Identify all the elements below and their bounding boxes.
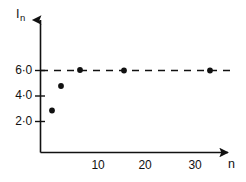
x-tick-label-30: 30	[181, 159, 209, 171]
x-tick-label-10: 10	[84, 159, 112, 171]
data-point	[77, 67, 83, 73]
y-tick-label-6: 6·0	[4, 64, 32, 76]
y-tick-label-4: 4·0	[4, 89, 32, 101]
data-point	[207, 68, 213, 74]
data-point	[58, 83, 64, 89]
data-point	[121, 68, 127, 74]
x-tick-label-20: 20	[131, 159, 159, 171]
y-axis-title-subscript: n	[20, 12, 25, 23]
data-point	[49, 108, 55, 114]
plot-background	[0, 0, 246, 182]
y-axis-title: In	[16, 8, 25, 23]
x-axis-title: n	[228, 158, 235, 171]
plot-canvas	[0, 0, 246, 182]
chart-figure: In n 6·0 4·0 2·0 10 20 30	[0, 0, 246, 182]
y-axis-title-base: I	[16, 7, 19, 21]
y-tick-label-2: 2·0	[4, 115, 32, 127]
